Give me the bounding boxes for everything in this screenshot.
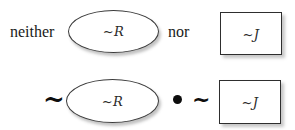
negation-tilde-middle: ~ bbox=[192, 88, 210, 110]
connective-label-nor: nor bbox=[168, 24, 189, 40]
variable-label-not-j-bottom: ~J bbox=[220, 96, 280, 109]
connective-label-neither: neither bbox=[10, 24, 54, 40]
logic-translation-diagram: neither ~R nor ~J ~ ~R ~ ~J bbox=[0, 0, 295, 130]
ellipse-not-r-bottom: ~R bbox=[66, 79, 159, 123]
negation-tilde-left: ~ bbox=[43, 86, 65, 112]
rectangle-not-j-top: ~J bbox=[220, 12, 282, 55]
variable-label-not-j-top: ~J bbox=[221, 27, 281, 40]
ellipse-not-r-top: ~R bbox=[68, 10, 159, 53]
variable-label-not-r-bottom: ~R bbox=[67, 95, 158, 108]
rectangle-not-j-bottom: ~J bbox=[219, 80, 281, 124]
variable-label-not-r-top: ~R bbox=[69, 24, 158, 37]
conjunction-dot-icon bbox=[173, 95, 182, 104]
